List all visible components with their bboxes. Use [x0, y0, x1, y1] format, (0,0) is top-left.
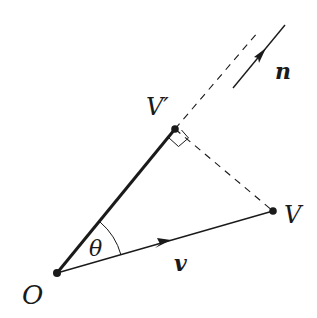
label-o: O — [22, 280, 43, 310]
projection-diagram: O V′ V θ v n — [0, 0, 317, 318]
angle-arc — [100, 222, 121, 255]
label-theta: θ — [89, 236, 102, 261]
dashed-extension-line — [175, 32, 258, 129]
dashed-perpendicular-line — [175, 129, 273, 211]
segment-o-vprime — [57, 129, 175, 273]
label-v: V — [284, 201, 304, 229]
point-vprime — [171, 125, 179, 133]
label-vector-v: v — [174, 250, 187, 276]
label-vprime: V′ — [146, 93, 169, 121]
label-normal-n: n — [275, 58, 291, 84]
point-o — [53, 269, 61, 277]
vector-v-arrowhead-icon — [155, 238, 171, 248]
point-v — [269, 207, 277, 215]
